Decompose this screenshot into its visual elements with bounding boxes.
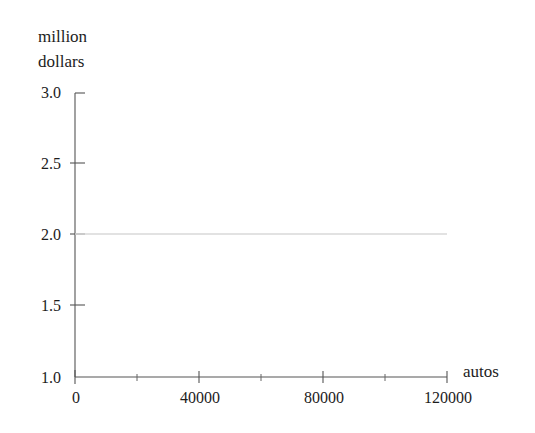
chart-container: million dollars autos 3.0 2.5 2.0 1.5 1.… bbox=[0, 0, 535, 433]
plot-area bbox=[0, 0, 535, 433]
